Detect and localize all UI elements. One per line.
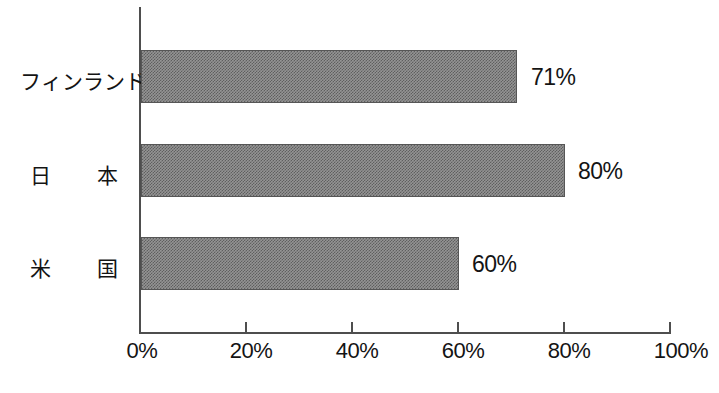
x-axis-tick-40: [351, 322, 353, 333]
x-axis-tick-label-100: 100%: [654, 338, 708, 364]
category-label-usa-char1: 米: [30, 257, 51, 281]
x-axis-tick-60: [457, 322, 459, 333]
x-axis-tick-80: [563, 322, 565, 333]
x-axis-tick-0: [139, 322, 141, 333]
data-label-japan: 80%: [578, 158, 623, 185]
x-axis-tick-100: [669, 322, 671, 333]
bar-finland: [141, 50, 517, 103]
x-axis-tick-label-20: 20%: [230, 338, 273, 364]
x-axis-tick-label-60: 60%: [442, 338, 485, 364]
bar-usa: [141, 237, 459, 290]
category-label-finland-text: フィンランド: [20, 70, 146, 94]
category-label-usa-char2: 国: [97, 257, 118, 281]
category-label-japan-char2: 本: [97, 164, 118, 188]
x-axis-tick-label-80: 80%: [548, 338, 591, 364]
bar-japan: [141, 144, 565, 197]
category-label-japan-char1: 日: [30, 164, 51, 188]
category-label-usa: 米国: [30, 252, 118, 282]
x-axis-tick-label-0: 0%: [127, 338, 158, 364]
x-axis-tick-20: [245, 322, 247, 333]
x-axis-tick-label-40: 40%: [336, 338, 379, 364]
bar-chart: 0% 20% 40% 60% 80% 100% フィンランド 日本 米国 71%…: [0, 0, 719, 393]
x-axis-line: [139, 332, 671, 334]
category-label-japan: 日本: [30, 159, 118, 189]
data-label-usa: 60%: [472, 251, 517, 278]
data-label-finland: 71%: [531, 64, 576, 91]
category-label-finland: フィンランド: [20, 65, 146, 95]
